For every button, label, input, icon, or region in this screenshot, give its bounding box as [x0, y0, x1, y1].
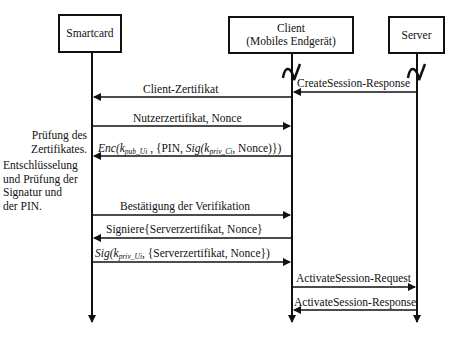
message-label: CreateSession-Response	[297, 77, 410, 90]
participant-smartcard: Smartcard	[58, 14, 122, 53]
message-label: Bestätigung der Verifikation	[120, 200, 250, 213]
message-label: ActivateSession-Response	[294, 296, 416, 309]
participant-server: Server	[388, 16, 445, 54]
message-label: ActivateSession-Request	[296, 272, 411, 285]
participant-label: Smartcard	[66, 27, 113, 40]
message-label: Nutzerzertifikat, Nonce	[133, 112, 242, 125]
participant-label: Server	[401, 29, 431, 42]
participant-client: Client (Mobiles Endgerät)	[228, 16, 354, 54]
message-label: Client-Zertifikat	[143, 83, 218, 96]
note-certificate-check: Prüfung des Zertifikates.	[0, 129, 87, 156]
participant-label-line2: (Mobiles Endgerät)	[246, 35, 336, 48]
participant-label-line1: Client	[277, 22, 305, 35]
message-label: Sig(kpriv_Ui, {Serverzertifikat, Nonce})	[95, 247, 270, 263]
message-label: Enc(kpub_Ui , {PIN, Sig(kpriv_Ci, Nonce)…	[98, 142, 281, 158]
note-decrypt-check: Entschlüsselung und Prüfung der Signatur…	[3, 159, 91, 213]
message-label: Signiere{Serverzertifikat, Nonce}	[106, 223, 263, 236]
